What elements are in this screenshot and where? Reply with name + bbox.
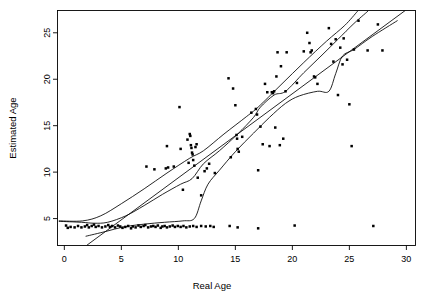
x-tick-label: 0 xyxy=(62,254,67,264)
data-point xyxy=(235,134,238,137)
data-point xyxy=(259,125,262,128)
data-point xyxy=(279,144,282,147)
data-point xyxy=(171,224,174,227)
data-point xyxy=(179,148,182,151)
data-point xyxy=(134,226,137,229)
x-tick-label: 30 xyxy=(401,254,411,264)
data-point xyxy=(232,87,235,90)
data-point xyxy=(147,226,150,229)
data-point xyxy=(69,226,72,229)
data-point xyxy=(182,189,185,192)
data-point xyxy=(381,49,384,52)
data-point xyxy=(189,135,192,138)
data-point xyxy=(250,111,253,114)
data-point xyxy=(282,137,285,140)
data-point xyxy=(204,225,207,228)
data-point xyxy=(187,162,190,165)
data-point xyxy=(303,50,306,53)
data-point xyxy=(280,65,283,68)
data-point xyxy=(241,136,244,139)
data-point xyxy=(124,226,127,229)
data-point xyxy=(311,49,314,52)
data-point xyxy=(179,226,182,229)
data-point xyxy=(166,226,169,229)
data-point xyxy=(189,225,192,228)
data-point xyxy=(208,163,211,166)
x-axis-title: Real Age xyxy=(193,280,232,291)
data-point xyxy=(341,63,344,65)
data-point xyxy=(163,225,166,228)
data-point xyxy=(314,76,317,79)
data-point xyxy=(153,168,156,171)
data-point xyxy=(334,38,337,41)
data-point xyxy=(346,58,349,61)
y-axis-title: Estimated Age xyxy=(7,97,18,158)
data-point xyxy=(274,126,277,129)
y-tick-label: 20 xyxy=(42,74,52,84)
data-point xyxy=(161,225,164,228)
data-point xyxy=(111,225,114,228)
data-point xyxy=(293,224,296,227)
data-point xyxy=(366,49,369,52)
data-point xyxy=(182,225,185,228)
x-tick-label: 25 xyxy=(344,254,354,264)
data-point xyxy=(236,226,239,229)
data-point xyxy=(86,224,89,227)
data-point xyxy=(330,43,333,46)
data-point xyxy=(342,37,345,40)
data-point xyxy=(157,224,160,227)
data-point xyxy=(195,226,198,229)
data-point xyxy=(227,77,230,80)
data-point xyxy=(139,226,142,229)
data-point xyxy=(67,227,70,230)
data-point xyxy=(264,83,267,86)
data-point xyxy=(328,27,331,30)
data-point xyxy=(132,225,135,228)
data-point xyxy=(190,147,193,150)
data-point xyxy=(94,226,97,229)
data-point xyxy=(236,148,239,151)
data-point xyxy=(166,145,169,148)
data-point xyxy=(353,48,356,51)
x-tick-label: 15 xyxy=(230,254,240,264)
data-point xyxy=(257,227,260,230)
data-point xyxy=(306,32,309,35)
data-point xyxy=(185,226,188,229)
data-point xyxy=(169,225,172,228)
data-point xyxy=(194,146,197,149)
data-point xyxy=(234,104,237,107)
data-point xyxy=(230,156,233,159)
data-point xyxy=(255,108,258,111)
data-point xyxy=(350,145,353,148)
data-point xyxy=(167,166,170,169)
data-point xyxy=(114,226,117,229)
data-point xyxy=(193,164,196,167)
data-point xyxy=(77,225,80,228)
data-point xyxy=(268,145,271,148)
data-point xyxy=(190,144,193,147)
data-point xyxy=(191,153,194,156)
data-point xyxy=(214,172,217,175)
data-point xyxy=(256,113,259,116)
data-point xyxy=(195,143,198,146)
data-point xyxy=(177,225,180,228)
data-point xyxy=(109,226,112,229)
data-point xyxy=(339,46,342,49)
data-point xyxy=(308,42,311,45)
data-point xyxy=(275,75,278,78)
data-point xyxy=(261,143,264,146)
data-point xyxy=(296,82,299,85)
data-point xyxy=(332,60,335,63)
data-point xyxy=(316,83,319,86)
y-tick-label: 10 xyxy=(42,167,52,177)
data-point xyxy=(73,226,76,229)
data-point xyxy=(206,167,209,170)
x-tick-label: 5 xyxy=(119,254,124,264)
data-point xyxy=(119,225,122,228)
data-point xyxy=(273,90,276,93)
data-point xyxy=(357,19,360,22)
data-point xyxy=(154,226,157,229)
data-point xyxy=(117,224,120,227)
data-point xyxy=(203,170,206,173)
data-point xyxy=(236,137,239,140)
